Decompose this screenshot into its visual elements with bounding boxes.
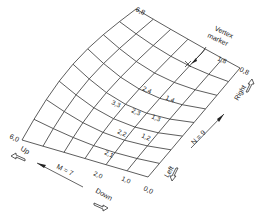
right-label: Right	[233, 84, 248, 102]
vertex-label: 2,3	[131, 107, 142, 117]
mesh-row-m1	[127, 59, 223, 171]
mesh-diagram: 0,0 6,0 6,8 0,8 1,02,02,12,21,22,31,33,3…	[0, 0, 262, 218]
corner-label-0-8: 0,8	[239, 66, 251, 77]
vertex-marker: Vertex marker	[185, 25, 235, 67]
vertex-label: 1,2	[141, 132, 152, 142]
up-arrow-icon	[11, 153, 25, 161]
down-label: Down	[95, 187, 114, 202]
vertex-label: 1,3	[151, 113, 162, 123]
vertex-label: 2,0	[93, 170, 104, 180]
mesh-col-n6	[103, 35, 217, 96]
mesh-col-n0	[22, 140, 148, 177]
corner-label-6-0: 6,0	[9, 133, 21, 144]
vertex-label: 2,2	[117, 128, 128, 138]
left-direction: Left	[163, 165, 178, 181]
n-count-annotation: N = 9	[190, 114, 224, 148]
right-arrow-icon	[246, 79, 254, 92]
leader-arrowhead-icon	[191, 58, 197, 64]
mesh-col-n5	[88, 49, 206, 109]
vertex-label: 1,0	[121, 175, 132, 185]
down-arrow-icon	[94, 203, 108, 211]
down-direction: Down	[94, 187, 114, 211]
n-arrowhead-icon	[217, 114, 224, 122]
mesh-col-n7	[120, 22, 229, 82]
left-label: Left	[163, 165, 175, 179]
vertex-label: 2,4	[142, 85, 153, 95]
m-count-annotation: M = 7	[37, 163, 83, 187]
right-direction: Right	[233, 79, 254, 102]
n-count-label: N = 9	[190, 129, 207, 146]
up-label: Up	[19, 145, 31, 156]
m-count-label: M = 7	[56, 163, 75, 177]
corner-label-0-0: 0,0	[143, 185, 155, 196]
vertex-label: 3,3	[111, 99, 122, 109]
up-direction: Up	[11, 145, 31, 161]
vertex-label: 2,1	[104, 149, 115, 159]
